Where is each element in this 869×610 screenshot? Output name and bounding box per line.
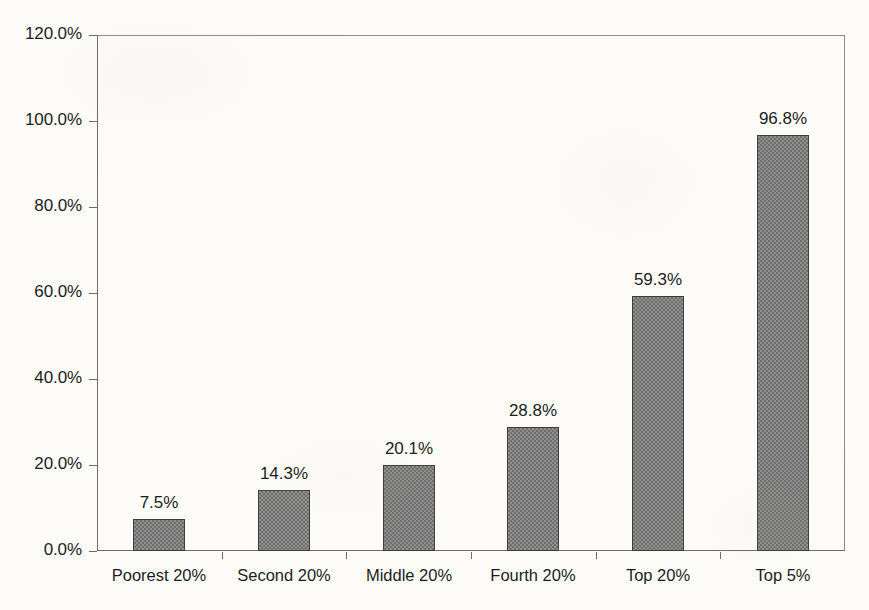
y-axis-tick-mark [89, 293, 97, 294]
bar [507, 427, 559, 551]
bar-value-label: 14.3% [224, 464, 344, 484]
y-axis-tick-label: 40.0% [34, 368, 82, 388]
y-axis-tick-label: 80.0% [34, 196, 82, 216]
y-axis-tick-mark [89, 551, 97, 552]
bar [757, 135, 809, 551]
y-axis-tick-mark [89, 35, 97, 36]
y-axis-tick-label: 60.0% [34, 282, 82, 302]
y-axis-tick-mark [89, 465, 97, 466]
bar-value-label: 28.8% [473, 401, 593, 421]
bar [133, 519, 185, 551]
y-axis-tick-mark [89, 207, 97, 208]
y-axis-tick-label: 100.0% [25, 110, 82, 130]
bar [632, 296, 684, 551]
y-axis: 0.0%20.0%40.0%60.0%80.0%100.0%120.0% [0, 0, 82, 610]
y-axis-tick-label: 0.0% [44, 540, 82, 560]
x-axis-tick-mark [346, 552, 347, 559]
bar [383, 465, 435, 551]
bar [258, 490, 310, 551]
x-axis-tick-mark [720, 552, 721, 559]
bar-chart: 0.0%20.0%40.0%60.0%80.0%100.0%120.0% 7.5… [0, 0, 869, 610]
bar-value-label: 59.3% [598, 270, 718, 290]
x-axis-tick-label: Top 5% [703, 566, 863, 585]
x-axis-tick-mark [596, 552, 597, 559]
bar-value-label: 7.5% [99, 493, 219, 513]
y-axis-tick-mark [89, 121, 97, 122]
bar-value-label: 96.8% [723, 109, 843, 129]
x-axis-tick-mark [222, 552, 223, 559]
y-axis-tick-label: 20.0% [34, 454, 82, 474]
y-axis-tick-mark [89, 379, 97, 380]
y-axis-tick-label: 120.0% [25, 24, 82, 44]
bar-value-label: 20.1% [349, 439, 469, 459]
x-axis-tick-mark [471, 552, 472, 559]
